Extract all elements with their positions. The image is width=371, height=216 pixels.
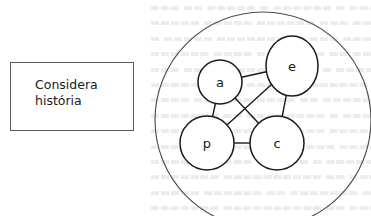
edge-a-p	[213, 104, 216, 117]
edge-a-c	[235, 98, 259, 123]
node-a: a	[198, 60, 242, 104]
node-label-c: c	[273, 136, 280, 151]
outer-circle	[155, 12, 371, 216]
node-label-p: p	[203, 136, 211, 151]
node-c: c	[250, 116, 304, 170]
nodes-group: aepc	[180, 36, 318, 170]
edge-e-c	[282, 95, 286, 116]
node-e: e	[266, 36, 318, 96]
edge-a-e	[242, 72, 267, 78]
node-label-e: e	[288, 59, 296, 74]
node-label-a: a	[216, 75, 224, 90]
relationship-diagram: aepc	[0, 0, 371, 216]
node-p: p	[180, 116, 234, 170]
